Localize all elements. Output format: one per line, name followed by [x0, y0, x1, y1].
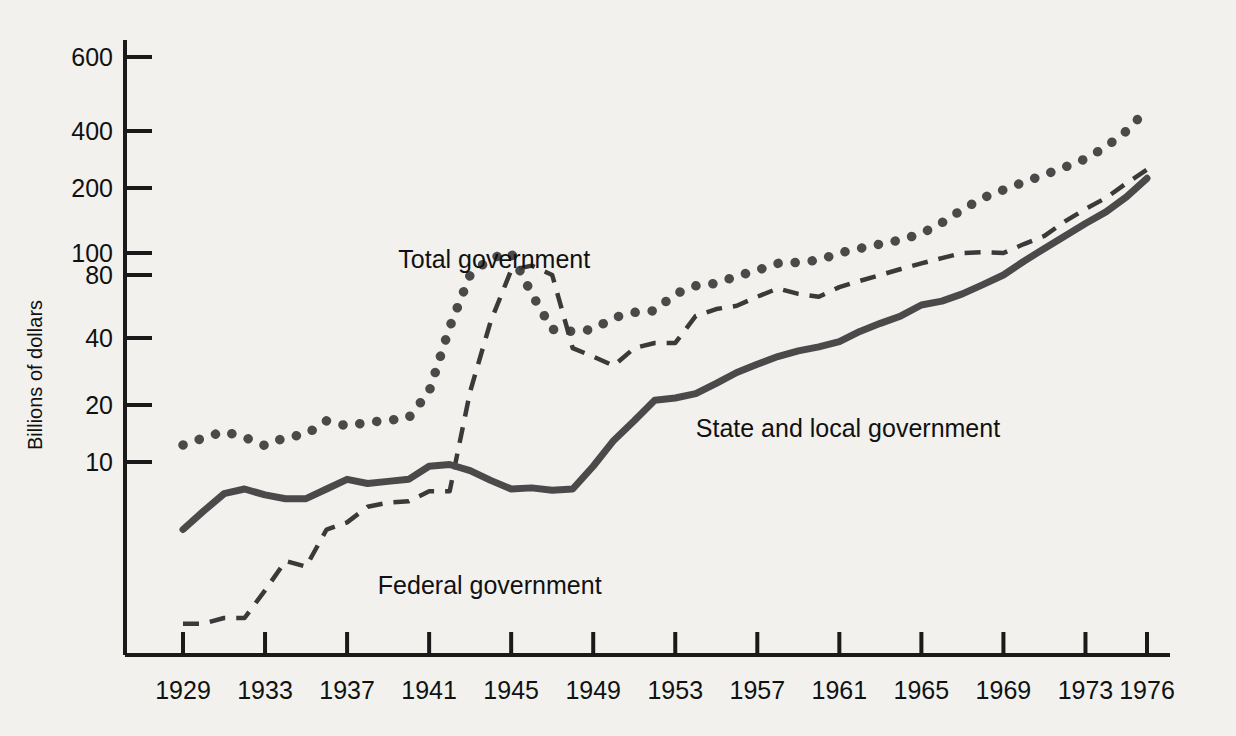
y-tick-label-100: 100 [71, 239, 113, 267]
x-tick-label-1949: 1949 [565, 676, 621, 704]
x-tick-label-1929: 1929 [155, 676, 211, 704]
y-tick-label-600: 600 [71, 43, 113, 71]
x-tick-label-1941: 1941 [401, 676, 457, 704]
government-expenditures-chart: 10204080100200400600 1929193319371941194… [0, 0, 1236, 736]
total-government-label: Total government [398, 245, 590, 273]
x-tick-label-1965: 1965 [894, 676, 950, 704]
y-tick-label-40: 40 [85, 324, 113, 352]
y-tick-label-20: 20 [85, 391, 113, 419]
y-tick-label-200: 200 [71, 174, 113, 202]
y-tick-label-10: 10 [85, 448, 113, 476]
y-tick-label-400: 400 [71, 117, 113, 145]
x-tick-label-1957: 1957 [729, 676, 785, 704]
x-tick-label-1953: 1953 [647, 676, 703, 704]
x-tick-label-1976: 1976 [1119, 676, 1175, 704]
chart-figure: 10204080100200400600 1929193319371941194… [0, 0, 1236, 736]
x-tick-label-1937: 1937 [319, 676, 375, 704]
x-tick-label-1961: 1961 [812, 676, 868, 704]
federal-government-label: Federal government [378, 571, 602, 599]
x-tick-label-1969: 1969 [976, 676, 1032, 704]
state-local-government-label: State and local government [696, 414, 1000, 442]
x-tick-label-1933: 1933 [237, 676, 293, 704]
y-axis-title: Billions of dollars [24, 300, 46, 450]
x-tick-label-1945: 1945 [483, 676, 539, 704]
x-tick-label-1973: 1973 [1058, 676, 1114, 704]
